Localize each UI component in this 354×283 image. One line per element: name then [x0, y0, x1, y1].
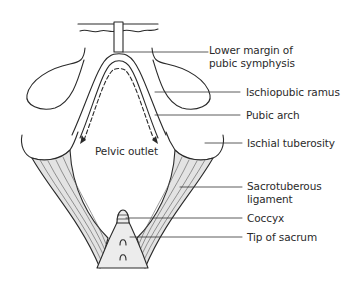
- label-tip-of-sacrum-text: Tip of sacrum: [247, 231, 317, 243]
- ischiopubic-ramus-curve: [80, 61, 158, 138]
- label-sacrotuberous-line2: ligament: [247, 193, 322, 206]
- label-lower-margin-pubic-symphysis: Lower margin of pubic symphysis: [209, 44, 295, 69]
- label-lower-margin-line1: Lower margin of: [209, 44, 293, 56]
- label-lower-margin-line2: pubic symphysis: [209, 57, 295, 70]
- label-pubic-arch-text: Pubic arch: [246, 109, 299, 121]
- label-ischiopubic-ramus-text: Ischiopubic ramus: [246, 86, 340, 98]
- label-tip-of-sacrum: Tip of sacrum: [247, 231, 317, 244]
- label-sacrotuberous-line1: Sacrotuberous: [247, 180, 322, 192]
- obturator-foramen-left: [27, 48, 85, 109]
- pelvic-outlet-label: Pelvic outlet: [95, 145, 158, 158]
- pubic-symphysis: [78, 22, 158, 52]
- label-ischial-tuberosity: Ischial tuberosity: [247, 137, 335, 150]
- obturator-foramen-right: [152, 48, 210, 109]
- label-ischiopubic-ramus: Ischiopubic ramus: [246, 86, 340, 99]
- coccyx: [117, 210, 129, 223]
- label-ischial-tuberosity-text: Ischial tuberosity: [247, 137, 335, 149]
- label-coccyx: Coccyx: [247, 212, 284, 225]
- label-sacrotuberous-ligament: Sacrotuberous ligament: [247, 180, 322, 205]
- label-coccyx-text: Coccyx: [247, 212, 284, 224]
- label-pubic-arch: Pubic arch: [246, 109, 299, 122]
